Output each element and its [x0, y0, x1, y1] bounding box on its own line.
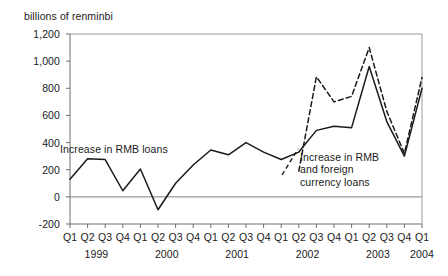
- x-axis-year-label: 2000: [144, 248, 190, 260]
- y-axis-tick-label: 600: [18, 109, 60, 121]
- y-axis-tick-label: 400: [18, 137, 60, 149]
- annotation-leader-line: [282, 149, 298, 175]
- annotation-rmb-loans: Increase in RMB loans: [60, 143, 168, 155]
- x-axis-tick-label: Q1: [409, 231, 435, 243]
- y-axis-tick-label: 200: [18, 164, 60, 176]
- chart-container: billions of renminbi 1,2001,000800600400…: [0, 0, 448, 276]
- y-axis-tick-label: 1,000: [18, 55, 60, 67]
- y-axis-tick-label: 800: [18, 82, 60, 94]
- x-axis-year-label: 2003: [355, 248, 401, 260]
- y-axis-tick-label: -200: [18, 218, 60, 230]
- x-axis-year-label: 1999: [73, 248, 119, 260]
- annotation-rmb-fx-loans: Increase in RMB and foreign currency loa…: [300, 151, 379, 188]
- x-axis-year-label: 2004: [399, 248, 445, 260]
- series-line-0: [70, 67, 422, 210]
- y-axis-tick-label: 1,200: [18, 28, 60, 40]
- x-axis-year-label: 2001: [214, 248, 260, 260]
- y-axis-tick-label: 0: [18, 191, 60, 203]
- x-axis-year-label: 2002: [285, 248, 331, 260]
